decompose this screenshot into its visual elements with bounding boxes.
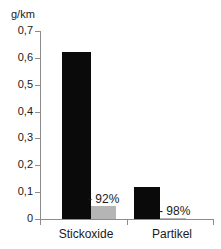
y-axis-tick-label: 0,1: [0, 186, 33, 197]
y-axis-tick-label: 0,7: [0, 25, 33, 36]
category-label-partikel: Partikel: [132, 227, 212, 241]
y-axis-unit-label: g/km: [11, 8, 35, 20]
bar-light-partikel: [160, 218, 186, 219]
y-axis-tick-label: 0,2: [0, 159, 33, 170]
bar-light-stickoxide: [91, 206, 116, 219]
y-axis-tick-label: 0,4: [0, 106, 33, 117]
x-axis-tick: [213, 220, 214, 225]
bar-dark-stickoxide: [62, 52, 91, 219]
reduction-annotation-partikel: - 98%: [159, 205, 190, 218]
reduction-annotation-stickoxide: - 92%: [88, 193, 119, 206]
bars-layer: [41, 31, 214, 219]
x-axis-tick: [40, 220, 41, 225]
bar-dark-partikel: [134, 187, 160, 219]
y-axis-tick-label: 0: [0, 213, 33, 224]
x-axis-tick: [127, 220, 128, 225]
y-axis-tick-label: 0,3: [0, 132, 33, 143]
category-label-stickoxide: Stickoxide: [42, 227, 130, 241]
bar-chart: g/km 0,70,60,50,40,30,20,10 - 92% - 98% …: [0, 0, 221, 249]
y-axis-tick-label: 0,6: [0, 52, 33, 63]
y-axis-tick-label: 0,5: [0, 79, 33, 90]
